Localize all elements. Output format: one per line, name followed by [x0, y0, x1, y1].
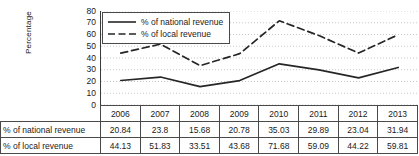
- table-cell: 23.04: [338, 122, 378, 138]
- table-header-cell: 2009: [219, 106, 259, 122]
- table-cell: 23.8: [140, 122, 180, 138]
- table-cell: 44.22: [338, 138, 378, 154]
- table-header-cell: 2011: [299, 106, 339, 122]
- table-header-cell: 2007: [140, 106, 180, 122]
- table-cell: 71.68: [259, 138, 299, 154]
- table-row-label: % of local revenue: [1, 138, 101, 154]
- data-table: 20062007200820092010201120122013% of nat…: [0, 105, 418, 154]
- y-tick-label: 50: [87, 42, 96, 51]
- table-cell: 44.13: [101, 138, 141, 154]
- chart-figure: Percentage 80706050403020100 % of nation…: [0, 0, 419, 156]
- y-axis-title: Percentage: [24, 0, 33, 83]
- y-axis-tick-labels: 80706050403020100: [74, 6, 96, 106]
- dashed-line-icon: [107, 29, 137, 39]
- table-cell: 31.94: [378, 122, 418, 138]
- table-cell: 29.89: [299, 122, 339, 138]
- table-cell: 59.81: [378, 138, 418, 154]
- table-row-label: % of national revenue: [1, 122, 101, 138]
- y-tick-label: 60: [87, 30, 96, 39]
- table-cell: 20.84: [101, 122, 141, 138]
- plot-area: % of national revenue % of local revenue: [100, 11, 418, 106]
- table-cell: 33.51: [180, 138, 220, 154]
- table-header-cell: 2006: [101, 106, 141, 122]
- y-tick-label: 10: [87, 89, 96, 98]
- table-cell: 15.68: [180, 122, 220, 138]
- y-tick-label: 30: [87, 65, 96, 74]
- table-cell: 43.68: [219, 138, 259, 154]
- table-cell: 51.83: [140, 138, 180, 154]
- solid-line-icon: [107, 17, 137, 27]
- table-cell: 35.03: [259, 122, 299, 138]
- table-corner-cell: [1, 106, 101, 122]
- legend-item-local: % of local revenue: [107, 28, 223, 40]
- legend-item-national: % of national revenue: [107, 16, 223, 28]
- table-cell: 20.78: [219, 122, 259, 138]
- table-header-cell: 2013: [378, 106, 418, 122]
- y-tick-label: 70: [87, 18, 96, 27]
- chart-legend: % of national revenue % of local revenue: [102, 12, 230, 44]
- table-header-row: 20062007200820092010201120122013: [1, 106, 418, 122]
- y-tick-label: 20: [87, 77, 96, 86]
- table-row: % of local revenue44.1351.8333.5143.6871…: [1, 138, 418, 154]
- table-header-cell: 2008: [180, 106, 220, 122]
- table-header-cell: 2010: [259, 106, 299, 122]
- legend-label-national: % of national revenue: [141, 17, 223, 27]
- y-tick-label: 40: [87, 54, 96, 63]
- table-header-cell: 2012: [338, 106, 378, 122]
- table-row: % of national revenue20.8423.815.6820.78…: [1, 122, 418, 138]
- legend-label-local: % of local revenue: [141, 29, 211, 39]
- table-cell: 59.09: [299, 138, 339, 154]
- series-line-national: [121, 64, 398, 87]
- y-tick-label: 80: [87, 7, 96, 16]
